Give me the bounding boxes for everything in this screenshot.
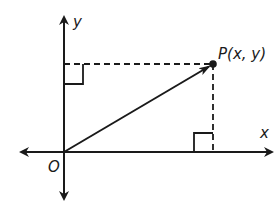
origin-label: O: [48, 158, 60, 176]
point-p-label: P(x, y): [218, 45, 266, 63]
point-p-dot: [209, 60, 217, 68]
y-axis-label: y: [72, 13, 83, 31]
coordinate-diagram: y x O P(x, y): [0, 0, 278, 202]
x-axis-label: x: [259, 124, 269, 142]
right-angle-marker-x-axis: [194, 133, 213, 152]
position-vector-arrow: [64, 67, 209, 153]
right-angle-marker-y-axis: [64, 64, 83, 84]
